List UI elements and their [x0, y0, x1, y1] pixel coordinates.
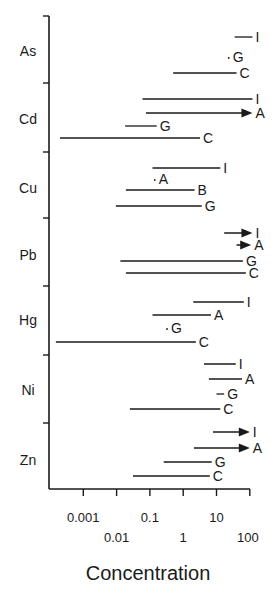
x-tick-label: 0.1 — [141, 510, 159, 525]
point-marker — [228, 57, 230, 59]
x-tick-label: 10 — [209, 510, 223, 525]
arrow-right-icon — [241, 109, 252, 118]
series-label-c: C — [203, 130, 213, 146]
x-axis-title: Concentration — [86, 562, 211, 584]
range-series: IGCIAGCIABGIAGCIAGCIAGCIAGC — [56, 29, 266, 484]
x-axis: 0.0010.1100.011100 — [49, 489, 259, 545]
series-label-c: C — [240, 65, 250, 81]
series-label-g: G — [171, 320, 182, 336]
x-tick-label: 0.001 — [67, 510, 100, 525]
series-label-g: G — [227, 386, 238, 402]
x-tick-label: 100 — [237, 530, 259, 545]
series-label-a: A — [254, 237, 264, 253]
series-label-a: A — [245, 371, 255, 387]
series-label-a: A — [214, 307, 224, 323]
arrow-right-icon — [239, 444, 250, 453]
series-label-c: C — [223, 401, 233, 417]
series-label-i: I — [247, 294, 251, 310]
series-label-g: G — [233, 49, 244, 65]
series-label-a: A — [253, 440, 263, 456]
category-label-ni: Ni — [21, 382, 34, 398]
series-label-c: C — [199, 334, 209, 350]
series-label-c: C — [213, 468, 223, 484]
series-label-b: B — [198, 182, 207, 198]
category-label-hg: Hg — [19, 312, 37, 328]
group-as: IGC — [173, 29, 259, 81]
group-pb: IAGC — [120, 225, 264, 281]
x-tick-label: 0.01 — [104, 530, 129, 545]
range-chart: AsCdCuPbHgNiZn 0.0010.1100.011100 IGCIAG… — [0, 0, 279, 594]
series-label-a: A — [255, 105, 265, 121]
point-marker — [154, 179, 156, 181]
group-hg: IAGC — [56, 294, 251, 350]
series-label-a: A — [159, 171, 169, 187]
series-label-g: G — [160, 118, 171, 134]
category-label-cd: Cd — [19, 111, 37, 127]
arrow-right-icon — [239, 428, 250, 437]
group-ni: IAGC — [130, 356, 255, 417]
category-label-cu: Cu — [19, 180, 37, 196]
series-label-g: G — [205, 198, 216, 214]
group-zn: IAGC — [133, 424, 263, 484]
series-label-c: C — [249, 265, 259, 281]
x-tick-label: 1 — [180, 530, 187, 545]
category-label-zn: Zn — [20, 452, 36, 468]
series-label-i: I — [255, 29, 259, 45]
group-cd: IAGC — [60, 91, 265, 146]
category-label-pb: Pb — [19, 247, 36, 263]
series-label-i: I — [253, 424, 257, 440]
group-cu: IABG — [116, 160, 227, 214]
series-label-i: I — [223, 160, 227, 176]
arrow-right-icon — [240, 241, 251, 250]
category-label-as: As — [20, 43, 36, 59]
arrow-right-icon — [241, 229, 252, 238]
y-axis: AsCdCuPbHgNiZn — [19, 16, 49, 489]
series-label-i: I — [239, 356, 243, 372]
point-marker — [166, 328, 168, 330]
